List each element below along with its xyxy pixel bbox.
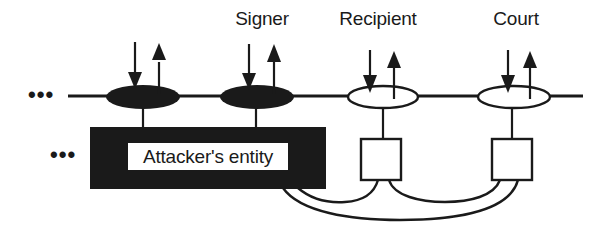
attacker-node-1: [106, 42, 180, 128]
recipient-node: [348, 50, 418, 138]
up-arrow-icon: [387, 51, 401, 68]
channel-recipient-court: [389, 180, 500, 202]
bottom-ellipsis: •••: [50, 142, 76, 168]
up-arrow-icon: [523, 51, 537, 68]
signer-node: [220, 44, 294, 128]
recipient-device-box: [361, 139, 401, 180]
court-device-box: [492, 139, 532, 180]
up-arrow-icon: [152, 43, 166, 60]
signer-label: Signer: [235, 8, 289, 30]
top-ellipsis: •••: [28, 82, 54, 108]
attacker-entity-label: Attacker's entity: [128, 143, 288, 170]
recipient-label: Recipient: [339, 8, 416, 30]
court-node: [478, 50, 550, 138]
court-label: Court: [493, 8, 538, 30]
diagram-canvas: [0, 0, 616, 233]
up-arrow-icon: [267, 44, 281, 62]
